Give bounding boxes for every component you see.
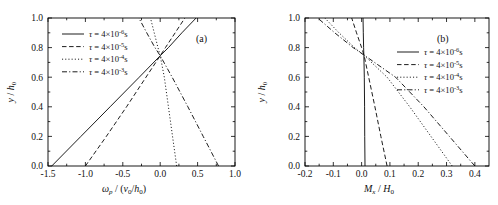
y-tick-label: 1.0 [288, 13, 300, 23]
x-tick-label: 0.0 [356, 169, 368, 179]
legend-label: τ = 4×10-4s [89, 53, 128, 64]
panel-b-tag: (b) [437, 33, 449, 45]
y-tick-label: 0.8 [288, 43, 300, 53]
x-tick-label: -0.5 [115, 169, 130, 179]
figure-container: -1.5-1.0-0.50.00.51.00.00.20.40.60.81.0 … [0, 0, 498, 205]
legend-label: τ = 4×10-5s [89, 41, 128, 52]
y-tick-label: 0.2 [288, 132, 300, 142]
y-tick-label: 0.0 [288, 161, 300, 171]
panel-a: -1.5-1.0-0.50.00.51.00.00.20.40.60.81.0 … [0, 0, 249, 205]
curve-dashed [352, 18, 387, 166]
panel-b-legend: τ = 4×10-6sτ = 4×10-5sτ = 4×10-4sτ = 4×1… [397, 46, 463, 95]
legend-label: τ = 4×10-6s [89, 28, 128, 39]
panel-a-tag: (a) [196, 33, 207, 45]
panel-b: -0.2-0.10.00.10.20.30.40.00.20.40.60.81.… [249, 0, 498, 205]
panel-a-yaxis-label: y / h0 [5, 81, 18, 103]
panel-b-plot: -0.2-0.10.00.10.20.30.40.00.20.40.60.81.… [249, 0, 498, 205]
x-tick-label: 1.0 [229, 169, 241, 179]
x-tick-label: 0.4 [469, 169, 481, 179]
panel-b-tick-labels: -0.2-0.10.00.10.20.30.40.00.20.40.60.81.… [288, 13, 481, 179]
legend-label: τ = 4×10-5s [424, 59, 463, 70]
legend-label: τ = 4×10-6s [424, 46, 463, 57]
panel-a-plot: -1.5-1.0-0.50.00.51.00.00.20.40.60.81.0 … [0, 0, 249, 205]
y-tick-label: 0.4 [288, 102, 300, 112]
legend-label: τ = 4×10-3s [424, 84, 463, 95]
panel-a-tick-labels: -1.5-1.0-0.50.00.51.00.00.20.40.60.81.0 [31, 13, 241, 179]
x-tick-label: 0.1 [384, 169, 396, 179]
y-tick-label: 1.0 [31, 13, 43, 23]
panel-a-curves [52, 18, 219, 166]
curve-dashed [85, 18, 184, 166]
y-tick-label: 0.0 [31, 161, 43, 171]
y-tick-label: 0.4 [31, 102, 43, 112]
x-tick-label: 0.0 [154, 169, 166, 179]
x-tick-label: -0.1 [326, 169, 341, 179]
y-tick-label: 0.6 [288, 73, 300, 83]
curve-solid [363, 18, 365, 166]
panel-a-legend: τ = 4×10-6sτ = 4×10-5sτ = 4×10-4sτ = 4×1… [62, 28, 128, 77]
panel-b-xaxis-label: Mx / H0 [363, 183, 394, 196]
x-tick-label: 0.3 [441, 169, 453, 179]
curve-dotted [150, 18, 176, 166]
panel-a-xaxis-label: ωp / (v0/h0) [102, 183, 146, 196]
x-tick-label: 0.5 [192, 169, 204, 179]
legend-label: τ = 4×10-3s [89, 66, 128, 77]
y-tick-label: 0.8 [31, 43, 43, 53]
panel-b-yaxis-label: y / h0 [256, 81, 269, 103]
legend-label: τ = 4×10-4s [424, 71, 463, 82]
y-tick-label: 0.6 [31, 73, 43, 83]
x-tick-label: 0.2 [412, 169, 424, 179]
x-tick-label: -1.0 [78, 169, 93, 179]
y-tick-label: 0.2 [31, 132, 43, 142]
